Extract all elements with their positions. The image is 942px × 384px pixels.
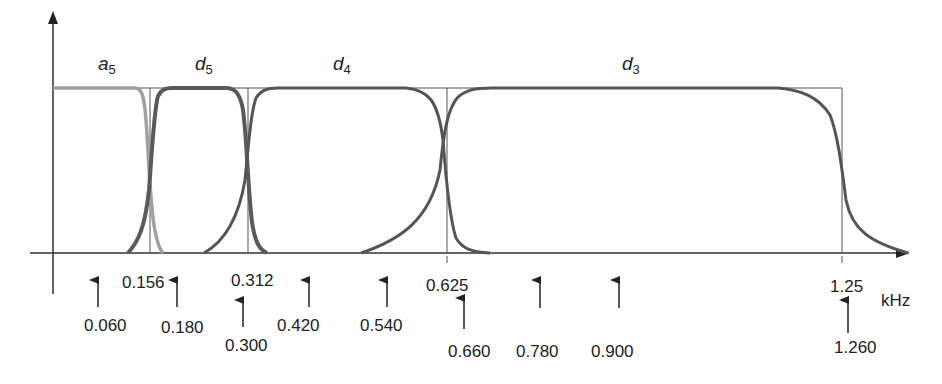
arrow-label-0.180: 0.180 bbox=[161, 318, 204, 338]
edge-label-0.625: 0.625 bbox=[426, 276, 469, 296]
x-axis-unit-label: kHz bbox=[881, 291, 910, 311]
arrow-label-0.300: 0.300 bbox=[225, 336, 268, 356]
a5-response-curve bbox=[53, 88, 163, 253]
arrow-label-0.540: 0.540 bbox=[360, 316, 403, 336]
band-letter: d bbox=[622, 53, 633, 74]
band-label-d3: d3 bbox=[622, 53, 640, 77]
band-letter: d bbox=[333, 53, 344, 74]
band-label-d5: d5 bbox=[195, 53, 213, 77]
band-label-d4: d4 bbox=[333, 53, 351, 77]
arrow-label-1.260: 1.260 bbox=[834, 338, 877, 358]
filter-bank-diagram bbox=[0, 0, 942, 384]
arrow-label-0.060: 0.060 bbox=[84, 316, 127, 336]
band-letter: d bbox=[195, 53, 206, 74]
band-index: 5 bbox=[206, 62, 213, 77]
arrow-label-0.900: 0.900 bbox=[591, 342, 634, 362]
arrow-label-0.420: 0.420 bbox=[277, 316, 320, 336]
frequency-arrows bbox=[98, 280, 848, 333]
d3-response-curve bbox=[361, 88, 908, 253]
y-axis bbox=[48, 11, 58, 294]
arrow-label-0.660: 0.660 bbox=[448, 342, 491, 362]
band-letter: a bbox=[98, 53, 109, 74]
band-index: 5 bbox=[109, 62, 116, 77]
band-label-a5: a5 bbox=[98, 53, 116, 77]
band-index: 3 bbox=[633, 62, 640, 77]
edge-label-0.312: 0.312 bbox=[231, 271, 274, 291]
band-index: 4 bbox=[344, 62, 351, 77]
edge-label-0.156: 0.156 bbox=[122, 273, 165, 293]
edge-label-1.25: 1.25 bbox=[830, 277, 863, 297]
arrow-label-0.780: 0.780 bbox=[516, 342, 559, 362]
